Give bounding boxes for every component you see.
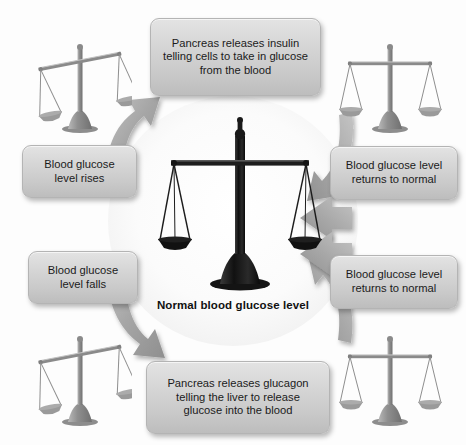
box-insulin-line3: from the blood (163, 64, 308, 78)
box-glucagon-line1: Pancreas releases glucagon (167, 377, 308, 391)
box-rises-line2: level rises (44, 172, 114, 186)
box-insulin-line1: Pancreas releases insulin (163, 37, 308, 51)
balance-scale-tilted-left-icon (28, 34, 132, 134)
box-returns-to-normal-top: Blood glucose level returns to normal (330, 146, 458, 200)
box-rises-line1: Blood glucose (44, 158, 114, 172)
box-pancreas-releases-glucagon: Pancreas releases glucagon telling the l… (146, 361, 330, 434)
box-falls-line1: Blood glucose (48, 264, 118, 278)
box-falls-line2: level falls (48, 278, 118, 292)
box-normal-top-line2: returns to normal (346, 173, 442, 187)
box-glucagon-line2: telling the liver to release (167, 391, 308, 405)
box-normal-bottom-line1: Blood glucose level (346, 268, 442, 282)
box-insulin-line2: telling cells to take in glucose (163, 50, 308, 64)
box-blood-glucose-level-falls: Blood glucose level falls (28, 251, 138, 304)
balance-scale-tilted-left-icon (28, 326, 132, 428)
box-normal-bottom-line2: returns to normal (346, 282, 442, 296)
balance-scale-balanced-icon (158, 112, 322, 292)
balance-scale-balanced-icon (338, 34, 442, 134)
balance-scale-balanced-icon (338, 326, 442, 428)
box-glucagon-line3: glucose into the blood (167, 404, 308, 418)
box-pancreas-releases-insulin: Pancreas releases insulin telling cells … (150, 18, 321, 96)
box-returns-to-normal-bottom: Blood glucose level returns to normal (330, 255, 458, 309)
box-blood-glucose-level-rises: Blood glucose level rises (22, 145, 137, 198)
diagram-canvas: Pancreas releases insulin telling cells … (0, 0, 466, 445)
center-caption: Normal blood glucose level (126, 299, 340, 311)
box-normal-top-line1: Blood glucose level (346, 159, 442, 173)
